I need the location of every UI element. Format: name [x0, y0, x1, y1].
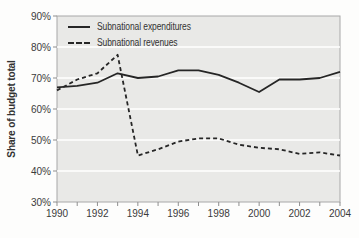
y-tick-label: 80% [31, 42, 51, 53]
x-tick-label: 1990 [46, 208, 69, 219]
y-tick-label: 40% [31, 166, 51, 177]
y-tick-label: 60% [31, 104, 51, 115]
legend-item-revenues: Subnational revenues [68, 37, 207, 48]
legend-label-revenues: Subnational revenues [97, 37, 178, 48]
x-tick-label: 2004 [329, 208, 352, 219]
y-tick-label: 50% [31, 135, 51, 146]
figure: 30%40%50%60%70%80%90%1990199219941996199… [0, 0, 359, 238]
legend-label-expenditures: Subnational expenditures [97, 21, 191, 32]
solid-line-icon [68, 26, 90, 28]
x-tick-label: 1998 [208, 208, 231, 219]
y-tick-label: 90% [31, 11, 51, 22]
x-tick-label: 1996 [167, 208, 190, 219]
x-tick-label: 1992 [86, 208, 109, 219]
y-tick-label: 30% [31, 197, 51, 208]
dashed-line-icon [68, 42, 90, 44]
y-tick-label: 70% [31, 73, 51, 84]
x-tick-label: 2002 [288, 208, 311, 219]
x-tick-label: 2000 [248, 208, 271, 219]
legend-item-expenditures: Subnational expenditures [68, 21, 207, 32]
x-tick-label: 1994 [127, 208, 150, 219]
legend: Subnational expenditures Subnational rev… [68, 21, 207, 48]
